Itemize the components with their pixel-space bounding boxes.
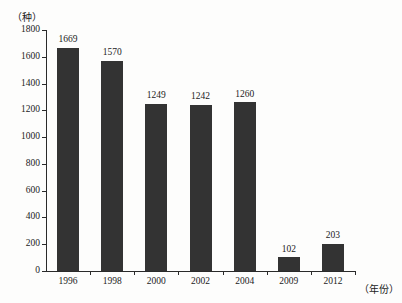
bar[interactable]: 1242 (190, 105, 212, 271)
x-tick-mark (355, 271, 356, 275)
x-category-label: 1998 (103, 277, 122, 287)
bar-value-label: 102 (282, 245, 296, 255)
y-tick-label: 1400 (21, 79, 40, 89)
x-axis-line (46, 271, 355, 272)
bar-value-label: 1260 (235, 90, 254, 100)
y-tick-mark (42, 110, 46, 111)
y-axis-unit-label: （种） (12, 9, 42, 24)
y-tick-mark (42, 84, 46, 85)
y-tick-mark (42, 217, 46, 218)
y-tick-label: 600 (26, 186, 40, 196)
x-tick-mark (223, 271, 224, 275)
x-axis-unit-label: （年份） (359, 281, 399, 296)
x-category-label: 1996 (59, 277, 78, 287)
y-tick-mark (42, 164, 46, 165)
bar-value-label: 1242 (191, 92, 210, 102)
bar[interactable]: 203 (322, 244, 344, 271)
bar-value-label: 1249 (147, 91, 166, 101)
y-tick-label: 1600 (21, 52, 40, 62)
bar-value-label: 1669 (59, 35, 78, 45)
x-tick-mark (267, 271, 268, 275)
y-axis-line (46, 30, 47, 272)
x-category-label: 2004 (235, 277, 254, 287)
y-tick-mark (42, 137, 46, 138)
x-category-label: 2009 (279, 277, 298, 287)
x-category-label: 2000 (147, 277, 166, 287)
bar[interactable]: 1249 (145, 104, 167, 271)
bar[interactable]: 1669 (57, 48, 79, 271)
y-tick-label: 1200 (21, 106, 40, 116)
x-tick-mark (90, 271, 91, 275)
y-tick-label: 0 (35, 266, 40, 276)
y-tick-mark (42, 191, 46, 192)
bar[interactable]: 1260 (234, 102, 256, 271)
y-tick-mark (42, 57, 46, 58)
bar-value-label: 203 (326, 231, 340, 241)
x-tick-mark (178, 271, 179, 275)
y-tick-label: 400 (26, 213, 40, 223)
y-tick-mark (42, 244, 46, 245)
bar-value-label: 1570 (103, 48, 122, 58)
x-tick-mark (134, 271, 135, 275)
y-tick-label: 800 (26, 159, 40, 169)
chart-page: （种） （年份） 0200400600800100012001400160018… (0, 0, 402, 303)
y-tick-label: 1800 (21, 25, 40, 35)
x-category-label: 2002 (191, 277, 210, 287)
bar[interactable]: 102 (278, 257, 300, 271)
bar[interactable]: 1570 (101, 61, 123, 271)
x-tick-mark (311, 271, 312, 275)
y-tick-label: 1000 (21, 132, 40, 142)
y-tick-mark (42, 30, 46, 31)
y-tick-mark (42, 271, 46, 272)
x-category-label: 2012 (323, 277, 342, 287)
plot-area: 020040060080010001200140016001800 166915… (46, 30, 355, 272)
y-tick-label: 200 (26, 239, 40, 249)
